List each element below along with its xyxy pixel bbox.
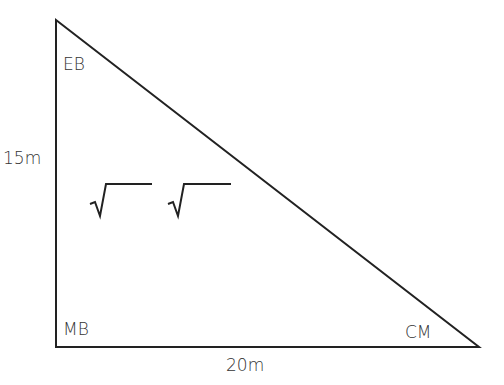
sqrt-placeholder-1 bbox=[90, 184, 152, 216]
side-label-horizontal: 20m bbox=[226, 357, 264, 374]
sqrt-placeholder-2 bbox=[168, 184, 231, 216]
vertex-label-cm: CM bbox=[405, 324, 432, 341]
diagram-canvas: EB MB CM 15m 20m bbox=[0, 0, 504, 385]
vertex-label-eb: EB bbox=[63, 56, 85, 73]
vertex-label-mb: MB bbox=[63, 321, 89, 338]
side-label-vertical: 15m bbox=[3, 150, 41, 167]
